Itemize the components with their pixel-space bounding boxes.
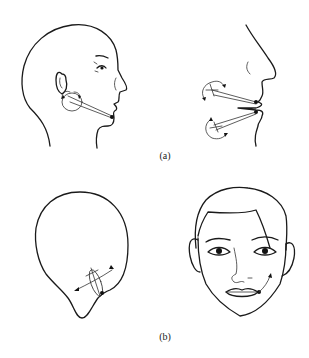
frontal-face [189, 187, 294, 316]
lips-profile-closeup [238, 25, 276, 146]
side-profile-head [22, 25, 127, 148]
cheek-crossed-arrows [74, 265, 114, 298]
jaw-muscle-vector-arrows [61, 91, 114, 119]
head-outline-top-view [35, 192, 128, 318]
panel-label-a: (a) [145, 150, 185, 161]
upper-lip-vector-arrows [202, 81, 258, 104]
figure-drawing [0, 0, 309, 358]
lower-lip-vector-arrows [206, 110, 258, 139]
mouth-corner-curved-arrow [257, 273, 272, 294]
panel-label-b: (b) [145, 331, 185, 342]
figure: (a) (b) [0, 0, 309, 358]
